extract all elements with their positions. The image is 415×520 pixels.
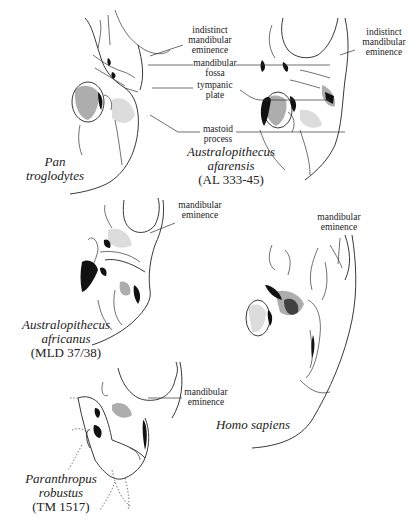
label-line: process	[196, 134, 240, 144]
label-line: eminence	[355, 47, 413, 57]
label-line: mastoid	[196, 124, 240, 134]
label-tympanic-plate: tympanic plate	[192, 80, 238, 100]
label-line: eminence	[312, 222, 366, 232]
species-epithet: afarensis	[207, 158, 254, 173]
species-genus: Paranthropus	[25, 471, 97, 486]
species-label-paranthropus-robustus: Paranthropus robustus (TM 1517)	[22, 472, 100, 514]
label-line: mandibular	[175, 200, 225, 210]
specimen-id: (AL 333-45)	[172, 173, 290, 187]
species-epithet: africanus	[41, 331, 90, 346]
species-label-homo-sapiens: Homo sapiens	[208, 418, 298, 432]
comparative-temporal-bone-figure: indistinct mandibular eminence mandibula…	[0, 0, 415, 520]
species-label-australopithecus-afarensis: Australopithecus afarensis (AL 333-45)	[172, 145, 290, 187]
species-genus: Australopithecus	[22, 317, 110, 332]
label-line: eminence	[180, 397, 232, 407]
label-mastoid-process: mastoid process	[196, 124, 240, 144]
species-genus: Pan	[45, 154, 66, 169]
label-line: mandibular	[190, 58, 240, 68]
label-mandibular-fossa: mandibular fossa	[190, 58, 240, 78]
species-label-pan-troglodytes: Pan troglodytes	[20, 155, 90, 183]
label-line: mandibular	[312, 212, 366, 222]
label-line: plate	[192, 90, 238, 100]
label-line: tympanic	[192, 80, 238, 90]
label-indistinct-mandibular-eminence-center: indistinct mandibular eminence	[178, 25, 242, 55]
label-line: mandibular	[355, 37, 413, 47]
label-line: mandibular	[178, 35, 242, 45]
label-line: indistinct	[178, 25, 242, 35]
specimen-id: (MLD 37/38)	[14, 346, 118, 360]
label-homo-mandibular-eminence: mandibular eminence	[312, 212, 366, 232]
species-genus: Australopithecus	[187, 144, 275, 159]
label-indistinct-mandibular-eminence-right: indistinct mandibular eminence	[355, 27, 413, 57]
specimen-id: (TM 1517)	[22, 500, 100, 514]
species-epithet: troglodytes	[26, 168, 84, 183]
label-line: mandibular	[180, 387, 232, 397]
label-line: fossa	[190, 68, 240, 78]
label-line: eminence	[175, 210, 225, 220]
label-africanus-mandibular-eminence: mandibular eminence	[175, 200, 225, 220]
species-epithet: robustus	[39, 485, 83, 500]
label-line: eminence	[178, 45, 242, 55]
drawings-layer	[0, 0, 415, 520]
species-name: Homo sapiens	[216, 417, 290, 432]
label-paranthropus-mandibular-eminence: mandibular eminence	[180, 387, 232, 407]
label-line: indistinct	[355, 27, 413, 37]
species-label-australopithecus-africanus: Australopithecus africanus (MLD 37/38)	[14, 318, 118, 360]
